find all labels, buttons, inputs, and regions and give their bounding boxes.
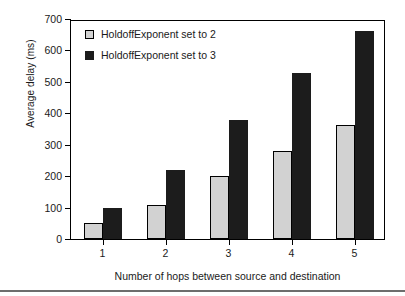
y-tick-label: 500: [44, 76, 62, 88]
x-tick-mark: [103, 239, 104, 245]
y-tick-mark: [65, 19, 71, 20]
legend-item: HoldoffExponent set to 2: [85, 28, 216, 40]
y-tick-mark: [65, 176, 71, 177]
bar: [166, 170, 185, 239]
y-tick-mark: [65, 145, 71, 146]
x-tick-label: 2: [163, 247, 169, 259]
y-tick-label: 200: [44, 170, 62, 182]
bar: [103, 208, 122, 239]
bar: [147, 205, 166, 239]
legend-label: HoldoffExponent set to 3: [101, 49, 216, 61]
y-tick-label: 300: [44, 139, 62, 151]
plot-area: 0100200300400500600700 12345 HoldoffExpo…: [70, 20, 385, 240]
x-tick-label: 4: [289, 247, 295, 259]
y-tick-mark: [65, 50, 71, 51]
bar: [355, 31, 374, 239]
y-tick-mark: [65, 208, 71, 209]
x-tick-mark: [292, 239, 293, 245]
bar: [229, 120, 248, 239]
y-tick-mark: [65, 82, 71, 83]
x-tick-mark: [355, 239, 356, 245]
bar: [273, 151, 292, 239]
x-tick-label: 5: [352, 247, 358, 259]
y-tick-label: 600: [44, 44, 62, 56]
y-tick-label: 700: [44, 13, 62, 25]
y-tick-mark: [65, 239, 71, 240]
legend-label: HoldoffExponent set to 2: [101, 28, 216, 40]
y-tick-label: 400: [44, 107, 62, 119]
bar: [210, 176, 229, 239]
x-tick-label: 1: [100, 247, 106, 259]
legend: HoldoffExponent set to 2HoldoffExponent …: [85, 28, 216, 61]
legend-swatch-icon: [85, 30, 94, 39]
x-tick-mark: [229, 239, 230, 245]
y-tick-label: 100: [44, 202, 62, 214]
y-tick-mark: [65, 113, 71, 114]
y-axis-title: Average delay (ms): [25, 4, 36, 164]
bar: [336, 125, 355, 239]
legend-item: HoldoffExponent set to 3: [85, 49, 216, 61]
x-tick-label: 3: [226, 247, 232, 259]
x-axis-title: Number of hops between source and destin…: [70, 270, 385, 282]
figure: Average delay (ms) 010020030040050060070…: [0, 0, 405, 296]
x-tick-mark: [166, 239, 167, 245]
legend-swatch-icon: [85, 51, 94, 60]
bar: [292, 73, 311, 239]
y-tick-label: 0: [56, 233, 62, 245]
bar: [84, 223, 103, 239]
bottom-divider: [0, 290, 405, 292]
